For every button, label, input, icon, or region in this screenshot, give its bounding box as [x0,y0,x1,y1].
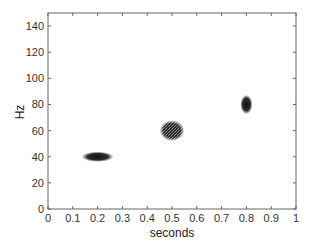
y-axis-label: Hz [13,105,27,120]
x-tick-label: 0.3 [115,212,130,224]
y-tick-label: 0 [38,203,44,215]
x-tick-label: 0 [45,212,51,224]
data-blob-atom-2 [160,120,185,141]
data-blob-atom-3 [240,95,252,115]
x-tick-label: 0.8 [239,212,254,224]
y-tick-label: 120 [26,46,44,58]
axes: 00.10.20.30.40.50.60.70.80.9102040608010… [26,13,299,224]
data-blobs [81,95,252,162]
x-tick-label: 0.6 [189,212,204,224]
x-tick-label: 0.7 [214,212,229,224]
x-tick-label: 0.5 [164,212,179,224]
x-tick-label: 0.1 [65,212,80,224]
y-tick-label: 60 [32,125,44,137]
data-blob-atom-1 [81,152,113,162]
y-tick-label: 80 [32,98,44,110]
time-frequency-chart: 00.10.20.30.40.50.60.70.80.9102040608010… [0,0,314,244]
y-tick-label: 20 [32,177,44,189]
y-tick-label: 140 [26,20,44,32]
x-tick-label: 0.9 [264,212,279,224]
x-tick-label: 1 [293,212,299,224]
x-axis-label: seconds [150,226,195,240]
x-tick-label: 0.2 [90,212,105,224]
y-tick-label: 40 [32,151,44,163]
axes-box [48,13,296,209]
y-tick-label: 100 [26,72,44,84]
x-tick-label: 0.4 [140,212,155,224]
